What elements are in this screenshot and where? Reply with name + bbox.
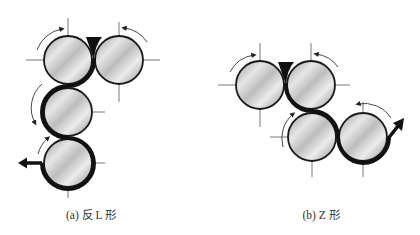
roll-3 — [44, 88, 92, 136]
roll-3 — [288, 113, 336, 161]
roll-2 — [95, 36, 143, 84]
rotation-ccw-arrow-icon — [31, 84, 42, 123]
caption-a: (a) 反 L 形 — [66, 206, 116, 222]
roll-1 — [44, 36, 92, 84]
caption-b: (b) Z 形 — [302, 206, 339, 222]
exit-arrow-icon — [18, 158, 27, 169]
panel-b-z-shape — [218, 43, 404, 177]
panel-a-reverse-l — [18, 18, 160, 198]
calender-roll-diagram — [0, 0, 420, 235]
roll-1 — [236, 61, 284, 109]
